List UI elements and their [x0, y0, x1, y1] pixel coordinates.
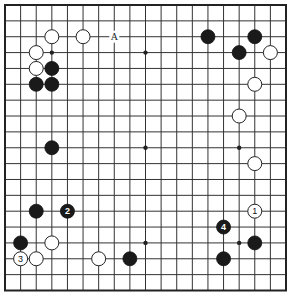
white-stone — [92, 252, 106, 266]
white-stone — [232, 109, 246, 123]
black-stone — [232, 46, 246, 60]
white-stone-icon — [92, 252, 106, 266]
board-markers: A — [109, 31, 119, 43]
black-stone — [123, 252, 137, 266]
white-stone-icon — [45, 236, 59, 250]
black-stone — [14, 236, 28, 250]
black-stone — [45, 61, 59, 75]
black-stone-icon — [217, 252, 231, 266]
black-stone — [29, 77, 43, 91]
black-stone — [217, 252, 231, 266]
black-stone — [201, 30, 215, 44]
star-point — [143, 146, 147, 150]
star-point — [50, 50, 54, 54]
white-stone-icon — [45, 30, 59, 44]
white-stone: 1 — [248, 204, 262, 218]
white-stone — [29, 46, 43, 60]
black-stone-icon — [232, 46, 246, 60]
black-stone-icon — [29, 77, 43, 91]
go-board-diagram: A 2143 — [0, 0, 291, 299]
star-point — [143, 50, 147, 54]
black-stone — [248, 30, 262, 44]
white-stone-icon — [232, 109, 246, 123]
black-stone: 4 — [217, 220, 231, 234]
white-stone-icon — [248, 77, 262, 91]
black-stone-icon — [248, 30, 262, 44]
white-stone-icon — [29, 46, 43, 60]
move-number-label: 4 — [221, 222, 226, 232]
star-point — [237, 241, 241, 245]
black-stone-icon — [201, 30, 215, 44]
white-stone — [248, 157, 262, 171]
white-stone-icon — [263, 46, 277, 60]
black-stone-icon — [45, 61, 59, 75]
white-stone: 3 — [14, 252, 28, 266]
black-stone-icon — [248, 236, 262, 250]
white-stone — [45, 236, 59, 250]
star-point — [237, 146, 241, 150]
white-stone — [45, 30, 59, 44]
move-number-label: 3 — [18, 254, 23, 264]
go-board: A 2143 — [0, 0, 291, 299]
black-stone: 2 — [60, 204, 74, 218]
move-number-label: 2 — [65, 206, 70, 216]
black-stone-icon — [45, 141, 59, 155]
white-stone-icon — [29, 252, 43, 266]
white-stone-icon — [29, 61, 43, 75]
white-stone — [76, 30, 90, 44]
black-stone-icon — [29, 204, 43, 218]
black-stone-icon — [123, 252, 137, 266]
black-stone — [45, 77, 59, 91]
point-label-marker: A — [111, 31, 119, 42]
white-stone — [29, 61, 43, 75]
white-stone — [248, 77, 262, 91]
star-point — [143, 241, 147, 245]
black-stone — [29, 204, 43, 218]
black-stone-icon — [45, 77, 59, 91]
white-stone — [29, 252, 43, 266]
white-stone-icon — [76, 30, 90, 44]
move-number-label: 1 — [252, 206, 257, 216]
black-stone — [45, 141, 59, 155]
white-stone — [263, 46, 277, 60]
white-stone-icon — [248, 157, 262, 171]
black-stone — [248, 236, 262, 250]
black-stone-icon — [14, 236, 28, 250]
